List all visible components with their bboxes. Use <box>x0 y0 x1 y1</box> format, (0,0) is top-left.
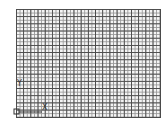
ucs-y-label: Y <box>17 80 22 88</box>
ucs-x-label: X <box>42 104 47 112</box>
drawing-canvas[interactable]: Y X <box>0 0 168 124</box>
drawing-grid[interactable] <box>16 9 161 118</box>
